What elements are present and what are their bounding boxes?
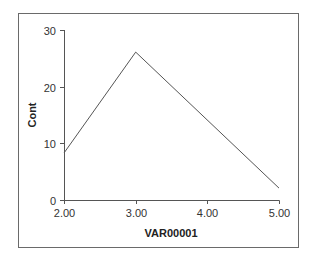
- line-chart: 0102030 2.003.004.005.00 Cont VAR00001: [0, 0, 311, 262]
- x-axis-title: VAR00001: [145, 227, 198, 239]
- y-tick-label: 20: [44, 82, 56, 94]
- x-tick-label: 4.00: [197, 207, 218, 219]
- y-tick-label: 10: [44, 138, 56, 150]
- series-line: [64, 52, 279, 188]
- x-axis: 2.003.004.005.00: [54, 201, 290, 220]
- y-axis: 0102030: [44, 25, 65, 207]
- x-tick-label: 2.00: [54, 207, 75, 219]
- y-axis-title: Cont: [26, 102, 38, 127]
- series-group: [64, 52, 279, 188]
- y-tick-label: 0: [50, 195, 56, 207]
- y-tick-label: 30: [44, 25, 56, 37]
- x-tick-label: 3.00: [126, 207, 147, 219]
- x-tick-label: 5.00: [269, 207, 290, 219]
